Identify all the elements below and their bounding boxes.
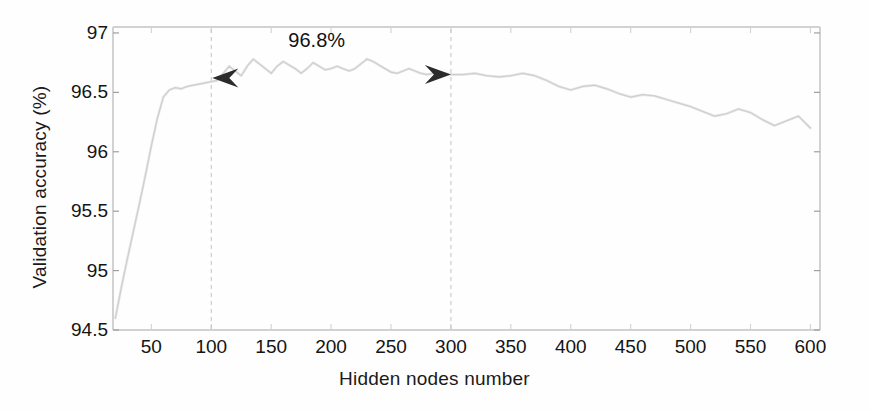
accuracy-curve: [115, 59, 810, 318]
peak-value-label: 96.8%: [288, 29, 345, 52]
x-tick-label: 150: [255, 336, 287, 358]
x-tick-label: 550: [735, 336, 767, 358]
x-tick-label: 100: [195, 336, 227, 358]
y-tick-label: 95.5: [46, 200, 108, 222]
axis-frame: [113, 27, 820, 330]
y-tick-label: 96: [46, 141, 108, 163]
validation-accuracy-chart: Validation accuracy (%) Hidden nodes num…: [0, 0, 869, 411]
y-tick-label: 95: [46, 260, 108, 282]
x-tick-label: 350: [495, 336, 527, 358]
x-tick-label: 450: [615, 336, 647, 358]
x-tick-label: 250: [375, 336, 407, 358]
x-tick-label: 300: [435, 336, 467, 358]
x-tick-label: 200: [315, 336, 347, 358]
x-tick-label: 500: [675, 336, 707, 358]
range-marker-lines: [211, 29, 451, 330]
x-tick-label: 50: [141, 336, 162, 358]
x-tick-label: 600: [795, 336, 827, 358]
y-tick-label: 96.5: [46, 81, 108, 103]
axis-ticks: [113, 27, 820, 330]
x-tick-label: 400: [555, 336, 587, 358]
x-axis-label: Hidden nodes number: [0, 368, 869, 390]
y-tick-label: 97: [46, 22, 108, 44]
x-axis-tick-labels: 50100150200250300350400450500550600: [0, 336, 869, 366]
